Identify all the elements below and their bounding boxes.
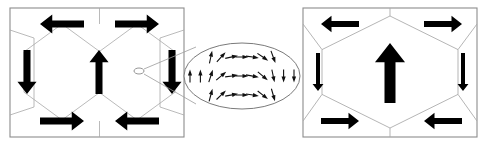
figure-container	[0, 0, 486, 146]
lattice-vector-field-figure	[0, 0, 486, 146]
